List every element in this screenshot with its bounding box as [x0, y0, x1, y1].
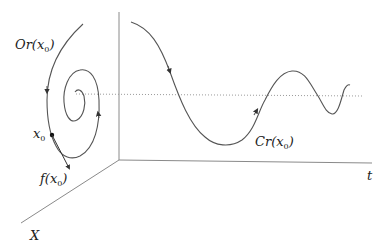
cr-label: Cr(x0) — [255, 134, 294, 151]
t-axis — [119, 160, 372, 163]
f-x0-label: f(x0) — [39, 171, 67, 188]
t-axis-label: t — [367, 168, 373, 183]
wave-arrow-2 — [254, 110, 257, 115]
orbit-spiral — [47, 24, 99, 158]
orbit-label: Or(x0) — [15, 37, 54, 54]
f-x0-vector — [52, 135, 69, 168]
x-axis-label: X — [29, 228, 40, 243]
orbit-diagram: Or(x0) x0 f(x0) Cr(x0) t X — [0, 0, 386, 249]
cr-wave-curve — [131, 22, 350, 145]
x0-label: x0 — [33, 126, 45, 143]
x-axis — [21, 160, 119, 223]
